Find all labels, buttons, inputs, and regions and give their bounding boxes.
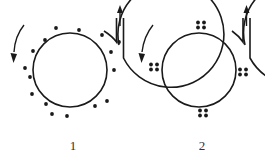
flow-arrow-shaft [142,25,153,52]
particle [44,102,48,106]
particle [244,68,248,72]
particle [196,26,200,30]
particle [50,112,54,116]
particle [43,38,47,42]
particle [54,26,58,30]
particle [149,68,153,72]
particles [149,21,248,118]
particle [30,92,34,96]
particle [109,50,113,54]
outlet-inner-wall [104,18,117,42]
particle [244,73,248,77]
outlet-inner-wall [232,18,243,42]
particle [202,21,206,25]
diagram-label: 1 [70,138,77,153]
particle [23,66,27,70]
particle [77,28,81,32]
particle [204,109,208,113]
particle [155,68,159,72]
particle [112,68,116,72]
particle [204,114,208,118]
particle [105,99,109,103]
diagram-1: 1 [11,0,224,153]
particle [198,114,202,118]
particle [100,33,104,37]
diagram-canvas: 1 2 [0,0,265,161]
particle [198,109,202,113]
particle [28,75,32,79]
particle [196,21,200,25]
particle [155,63,159,67]
inner-wall [162,33,236,107]
inner-wall [33,33,107,107]
particle [31,49,35,53]
outer-wall [118,0,224,87]
flow-arrow-head [11,53,18,63]
particle [149,63,153,67]
particle [202,26,206,30]
flow-arrow-shaft [14,25,24,52]
particle [238,68,242,72]
flow-arrow-head [139,53,146,63]
particle [65,114,69,118]
diagram-label: 2 [199,138,206,153]
particle [117,40,121,44]
particle [93,104,97,108]
outlet-arrow-head [117,5,123,13]
particle [238,73,242,77]
